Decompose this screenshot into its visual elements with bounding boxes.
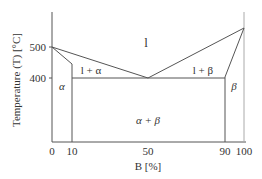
region-l-alpha: l + α [81,64,102,76]
x-tick-50: 50 [143,145,155,157]
region-liquid: l [144,35,148,50]
x-axis-label: B [%] [135,160,162,172]
y-tick-400: 400 [30,72,47,84]
alpha-boundary [52,47,72,142]
phase-diagram: 500 400 0 10 50 90 100 B [%] Temperature… [0,0,262,179]
x-tick-0: 0 [49,145,55,157]
region-alpha: α [59,80,65,92]
y-tick-500: 500 [30,41,47,53]
region-l-beta: l + β [193,64,214,76]
region-alpha-beta: α + β [136,114,161,126]
x-tick-90: 90 [220,145,232,157]
region-beta: β [230,80,237,92]
x-tick-100: 100 [236,145,253,157]
x-tick-10: 10 [67,145,79,157]
y-axis-label: Temperature (T) [°C] [10,33,23,127]
